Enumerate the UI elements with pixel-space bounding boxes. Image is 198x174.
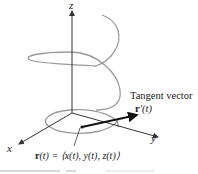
tangent-vector-symbol: r′(t) (135, 104, 152, 115)
tangent-symbol-rest: ′(t) (140, 103, 152, 114)
cropped-caption (0, 167, 198, 174)
position-equation: r(t) = ⟨x(t), y(t), z(t)⟩ (35, 151, 120, 161)
tangent-vector-arrow (82, 115, 137, 127)
tangent-vector-title: Tangent vector (130, 91, 193, 102)
x-axis (19, 113, 72, 144)
y-axis-label: y (151, 133, 156, 144)
point-on-curve (80, 125, 83, 128)
helix-curve-top (96, 15, 119, 66)
position-leader-line (74, 128, 80, 146)
helix-curve-back (45, 110, 118, 127)
helix-diagram (0, 0, 198, 174)
position-equation-rest: (t) = ⟨x(t), y(t), z(t)⟩ (39, 150, 119, 161)
x-axis-label: x (7, 143, 12, 154)
z-axis-label: z (69, 0, 73, 11)
